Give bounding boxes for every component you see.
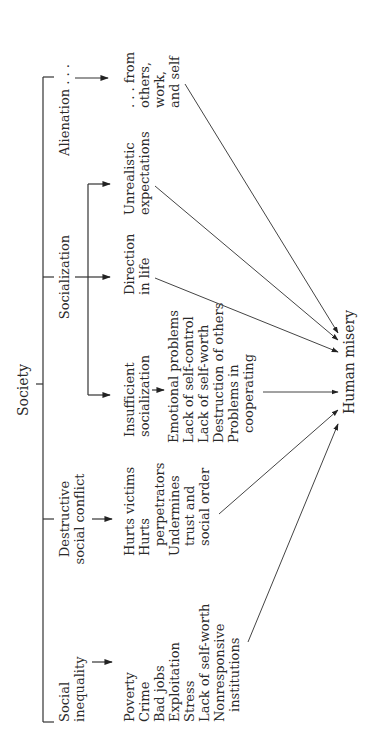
social-inequality-effects: Poverty Crime Bad jobs Exploitation Stre… [122, 603, 242, 722]
alienation-label: Alienation . . . [57, 64, 72, 157]
svg-text:Direction: Direction [122, 233, 137, 295]
svg-text:trust and: trust and [182, 486, 197, 546]
society-label: Society [15, 364, 31, 416]
destructive-conflict-label: Destructive [57, 481, 72, 558]
svg-text:social conflict: social conflict [72, 473, 87, 565]
svg-text:Undermines: Undermines [167, 475, 182, 556]
svg-text:inequality: inequality [72, 656, 87, 722]
svg-text:Poverty: Poverty [122, 671, 137, 722]
svg-text:Emotional problems: Emotional problems [166, 310, 181, 443]
svg-text:Destruction of others: Destruction of others [211, 303, 226, 443]
insufficient-socialization-effects: Emotional problems Lack of self-control … [166, 303, 256, 443]
society-misery-diagram: Society Alienation . . . . . . from othe… [0, 0, 382, 748]
insufficient-socialization-node: Insufficient socialization [122, 354, 164, 437]
alienation-to-misery-arrow-icon [185, 84, 338, 333]
svg-text:Hurts: Hurts [137, 518, 152, 556]
svg-text:institutions: institutions [227, 638, 242, 712]
svg-text:others,: others, [137, 62, 152, 108]
svg-text:and self: and self [167, 55, 182, 108]
svg-text:Crime: Crime [137, 681, 152, 722]
svg-text:Nonresponsive: Nonresponsive [212, 623, 227, 722]
human-misery-node: Human misery [341, 310, 357, 414]
main-bracket [43, 77, 54, 722]
svg-text:Lack of self-control: Lack of self-control [181, 316, 196, 443]
svg-text:Lack of self-worth: Lack of self-worth [196, 324, 211, 443]
socialization-label: Socialization [57, 234, 72, 319]
alienation-branch: Alienation . . . . . . from others, work… [57, 52, 182, 157]
social-inequality-label: Social [57, 682, 72, 722]
inequality-to-misery-arrow-icon [248, 424, 338, 642]
unrealistic-expectations-node: Unrealistic expectations [122, 131, 152, 215]
svg-text:social order: social order [197, 467, 212, 546]
svg-text:cooperating: cooperating [241, 354, 256, 433]
human-misery-label: Human misery [341, 310, 357, 414]
svg-text:. . . from: . . . from [122, 52, 137, 108]
svg-text:socialization: socialization [137, 354, 152, 437]
socialization-branch: Socialization Unrealistic expectations D… [57, 131, 256, 443]
alienation-effects: . . . from others, work, and self [122, 52, 182, 108]
destructive-conflict-effects: Hurts victims Hurts perpetrators Undermi… [122, 463, 212, 556]
svg-text:in life: in life [137, 257, 152, 295]
direction-in-life-node: Direction in life [122, 233, 152, 295]
social-inequality-branch: Social inequality Poverty Crime Bad jobs… [57, 603, 242, 722]
society-node: Society [15, 364, 43, 416]
svg-text:Stress: Stress [182, 681, 197, 722]
destructive-conflict-branch: Destructive social conflict Hurts victim… [57, 463, 212, 565]
svg-text:Hurts victims: Hurts victims [122, 467, 137, 556]
svg-text:work,: work, [152, 71, 167, 108]
svg-text:Insufficient: Insufficient [122, 362, 137, 437]
svg-text:Bad jobs: Bad jobs [152, 665, 167, 722]
svg-text:Lack of self-worth: Lack of self-worth [197, 603, 212, 722]
svg-text:perpetrators: perpetrators [152, 463, 167, 546]
svg-text:expectations: expectations [137, 131, 152, 215]
svg-text:Problems in: Problems in [226, 364, 241, 443]
svg-text:Exploitation: Exploitation [167, 642, 182, 722]
svg-text:Unrealistic: Unrealistic [122, 142, 137, 215]
